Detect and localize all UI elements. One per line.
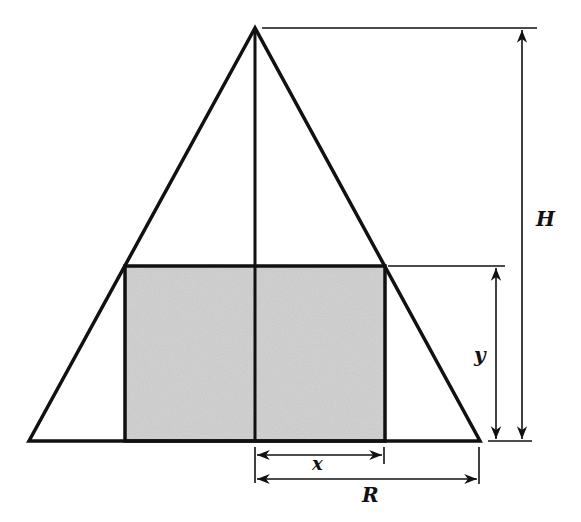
- dimension-y: y: [473, 268, 496, 439]
- label-R: R: [361, 483, 379, 507]
- label-H: H: [535, 207, 556, 231]
- dimension-H: H: [522, 30, 556, 439]
- diagram-canvas: H y x R: [0, 0, 581, 522]
- dimension-R: R: [257, 479, 477, 507]
- label-x: x: [311, 453, 323, 474]
- dimension-x: x: [257, 453, 382, 474]
- label-y: y: [473, 343, 487, 367]
